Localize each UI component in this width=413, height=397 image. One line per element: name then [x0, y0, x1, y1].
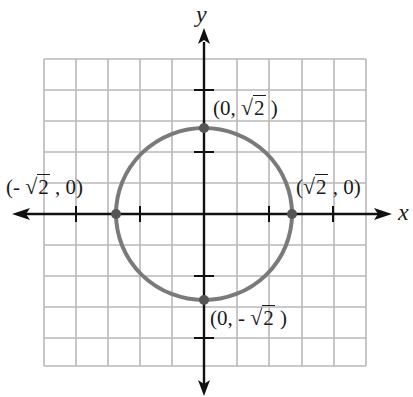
y-axis-label: y — [196, 2, 207, 26]
y-axis-up-arrow-icon — [198, 28, 210, 44]
point-top — [199, 123, 209, 133]
label-top-point: (0, √2 ) — [213, 97, 278, 119]
label-right-point: (√2 , 0) — [296, 176, 361, 198]
point-bottom — [199, 295, 209, 305]
point-right — [287, 209, 297, 219]
point-left — [111, 209, 121, 219]
x-axis-label: x — [398, 200, 409, 224]
label-bottom-point: (0, - √2 ) — [210, 307, 287, 329]
label-left-point: (- √2 , 0) — [6, 176, 83, 198]
